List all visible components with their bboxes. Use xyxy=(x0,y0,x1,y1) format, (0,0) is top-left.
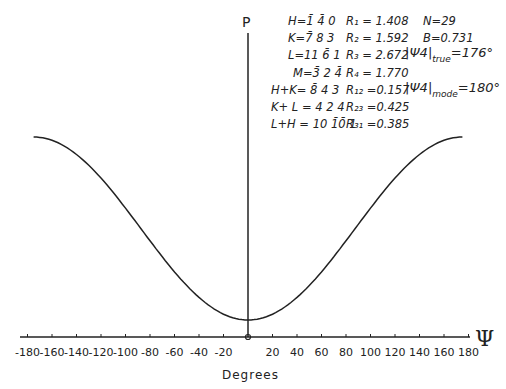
x-tick-label: 60 xyxy=(315,346,329,359)
psi-true: |Ψ4|true=176° xyxy=(405,46,493,61)
annotation-b: B=0.731 xyxy=(423,31,473,45)
kl-vector: K+ L = 4 2 4 xyxy=(271,100,344,114)
annotation-row-5: H+K= 8̄ 4 3 xyxy=(271,83,339,97)
annotation-row-2: K=7̄ 8 3 xyxy=(288,31,334,45)
annotation-row-6: K+ L = 4 2 4 xyxy=(271,100,344,114)
r12-value: R₁₂ =0.157 xyxy=(346,83,409,97)
hk-vector: H+K= 8̄ 4 3 xyxy=(271,83,339,97)
lh-vector: L+H = 10 1̄0̄ 1 xyxy=(271,117,357,131)
x-tick-label: -100 xyxy=(113,346,138,359)
x-tick-label: 80 xyxy=(339,346,353,359)
annotation-r4: R₄ = 1.770 xyxy=(346,66,408,80)
psi-true-symbol: |Ψ4| xyxy=(405,45,432,60)
psi-mode-value: =180° xyxy=(458,80,500,95)
x-axis-title: Degrees xyxy=(222,368,279,382)
psi-mode-sub: mode xyxy=(432,89,458,99)
x-tick-label: 140 xyxy=(409,346,430,359)
x-tick-label: 160 xyxy=(434,346,455,359)
psi-true-sub: true xyxy=(432,54,450,64)
b-value: B=0.731 xyxy=(423,31,473,45)
x-tick-label: -180 xyxy=(15,346,40,359)
r23-value: R₂₃ =0.425 xyxy=(346,100,409,114)
x-tick-label: -160 xyxy=(40,346,65,359)
r2-value: R₂ = 1.592 xyxy=(346,31,408,45)
annotation-n: N=29 xyxy=(423,14,456,28)
annotation-r12: R₁₂ =0.157 xyxy=(346,83,409,97)
n-value: N=29 xyxy=(423,14,456,28)
r4-value: R₄ = 1.770 xyxy=(346,66,408,80)
m-vector: M=3̄ 2 4̄ xyxy=(293,66,342,80)
annotation-r2: R₂ = 1.592 xyxy=(346,31,408,45)
r1-value: R₁ = 1.408 xyxy=(346,14,408,28)
x-tick-label: 100 xyxy=(360,346,381,359)
x-tick-label: 40 xyxy=(290,346,304,359)
psi-true-value: =176° xyxy=(451,45,493,60)
x-tick-label: -140 xyxy=(64,346,89,359)
r31-value: R₃₁ =0.385 xyxy=(346,117,409,131)
p-axis-label: P xyxy=(242,14,250,30)
x-tick-label: -60 xyxy=(166,346,184,359)
psi-mode-symbol: |Ψ4| xyxy=(405,80,432,95)
psi-mode: |Ψ4|mode=180° xyxy=(405,81,500,96)
annotation-r1: R₁ = 1.408 xyxy=(346,14,408,28)
psi-axis-label: Ψ xyxy=(475,326,494,351)
annotation-row-7: L+H = 10 1̄0̄ 1 xyxy=(271,117,357,131)
annotation-r23: R₂₃ =0.425 xyxy=(346,100,409,114)
x-tick-label: -80 xyxy=(141,346,159,359)
x-tick-label: -20 xyxy=(215,346,233,359)
annotation-r3: R₃ = 2.672 xyxy=(346,48,408,62)
annotation-row-4: M=3̄ 2 4̄ xyxy=(293,66,342,80)
annotation-row-3: L=11 6̄ 1 xyxy=(288,48,341,62)
h-vector: H=1̄ 4̄ 0 xyxy=(288,14,336,28)
r3-value: R₃ = 2.672 xyxy=(346,48,408,62)
annotation-r31: R₃₁ =0.385 xyxy=(346,117,409,131)
x-tick-label: -120 xyxy=(89,346,114,359)
x-tick-label: -40 xyxy=(190,346,208,359)
k-vector: K=7̄ 8 3 xyxy=(288,31,334,45)
annotation-row-1: H=1̄ 4̄ 0 xyxy=(288,14,336,28)
x-tick-label: 20 xyxy=(266,346,280,359)
x-tick-labels: -180-160-140-120-100-80-60-40-2020406080… xyxy=(15,346,479,359)
x-tick-label: 120 xyxy=(385,346,406,359)
l-vector: L=11 6̄ 1 xyxy=(288,48,341,62)
